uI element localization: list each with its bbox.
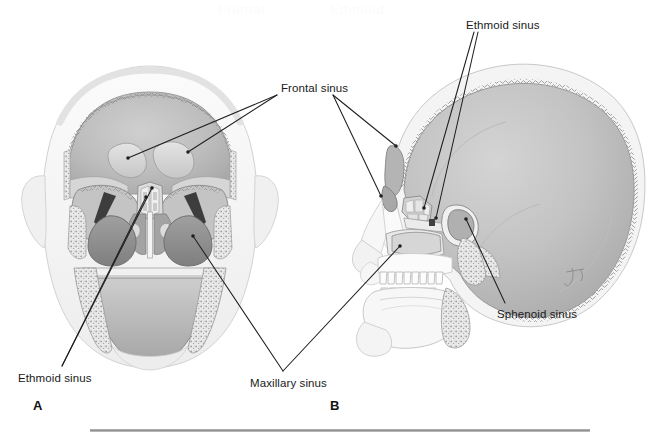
skull-illustration	[0, 0, 653, 442]
panel-a-coronal-skull	[22, 66, 279, 370]
leader-endpoint-ethmoid-sinus-a-1	[150, 186, 154, 190]
panel-letter-b: B	[330, 398, 339, 413]
ghost-text-frontal: Frontal	[218, 2, 265, 17]
anatomy-figure: Frontal Ethmoid Frontal sinus Ethmoid si…	[0, 0, 653, 442]
label-ethmoid-sinus-a: Ethmoid sinus	[18, 372, 92, 384]
leader-line-frontal-sinus-3	[333, 95, 381, 196]
leader-endpoint-frontal-sinus-1	[186, 150, 190, 154]
leader-endpoint-frontal-sinus-0	[126, 156, 130, 160]
leader-endpoint-maxillary-sinus-0	[191, 234, 195, 238]
sphenoid-sinus-b	[448, 210, 474, 241]
leader-endpoint-frontal-sinus-2	[394, 144, 398, 148]
maxillary-sinus-b	[392, 232, 441, 255]
leader-endpoint-ethmoid-sinus-b-0	[422, 206, 426, 210]
leader-endpoint-frontal-sinus-3	[379, 194, 383, 198]
leader-endpoint-ethmoid-sinus-b-1	[434, 216, 438, 220]
leader-line-frontal-sinus-2	[333, 95, 396, 146]
label-frontal-sinus: Frontal sinus	[281, 82, 348, 94]
label-sphenoid-sinus: Sphenoid sinus	[497, 308, 577, 320]
leader-endpoint-ethmoid-sinus-a-0	[144, 195, 148, 199]
panel-letter-a: A	[33, 398, 42, 413]
leader-endpoint-maxillary-sinus-1	[398, 244, 402, 248]
ghost-text-ethmoid: Ethmoid	[330, 2, 385, 17]
leader-endpoint-sphenoid-sinus-0	[464, 217, 468, 221]
figure-divider-rule	[90, 429, 590, 432]
label-ethmoid-sinus-b: Ethmoid sinus	[466, 19, 540, 31]
label-maxillary-sinus: Maxillary sinus	[250, 377, 327, 389]
